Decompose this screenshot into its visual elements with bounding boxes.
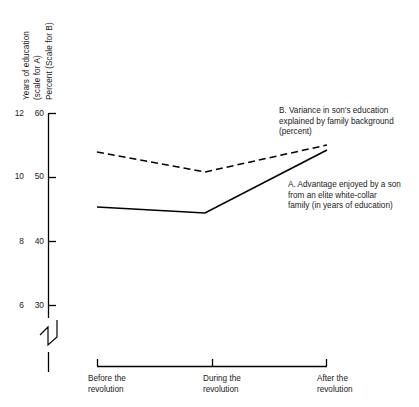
x-tick-label-after-line2: revolution	[317, 385, 353, 396]
x-tick-label-during-line1: During the	[203, 374, 241, 385]
series-annotation-a-line1: A. Advantage enjoyed by a son	[288, 180, 401, 191]
chart-figure: Years of education (scale for A) Percent…	[0, 0, 419, 407]
series-annotation-b: B. Variance in son's education explained…	[279, 106, 394, 138]
x-tick-label-before: Before the revolution	[88, 374, 126, 395]
x-tick-label-after-line1: After the	[317, 374, 353, 385]
x-tick-label-during: During the revolution	[203, 374, 241, 395]
series-annotation-b-line2: explained by family background	[279, 117, 394, 128]
series-annotation-b-line3: (percent)	[279, 127, 394, 138]
series-annotation-a-line3: family (in years of education)	[288, 201, 401, 212]
x-tick-label-after: After the revolution	[317, 374, 353, 395]
x-tick-label-during-line2: revolution	[203, 385, 241, 396]
series-annotation-a: A. Advantage enjoyed by a son from an el…	[288, 180, 401, 212]
axis-break-symbol	[40, 320, 57, 345]
series-annotation-a-line2: from an elite white-collar	[288, 191, 401, 202]
series-annotation-b-line1: B. Variance in son's education	[279, 106, 394, 117]
x-tick-label-before-line1: Before the	[88, 374, 126, 385]
x-tick-label-before-line2: revolution	[88, 385, 126, 396]
